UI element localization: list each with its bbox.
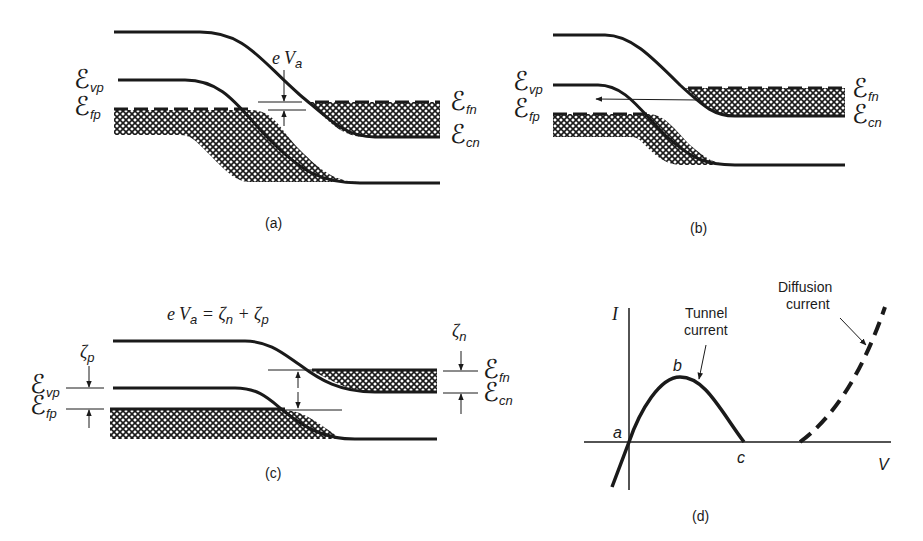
panel-a: eVa ℰvp ℰfp ℰfn ℰcn (a) — [74, 32, 480, 231]
panel-b: ℰvp ℰfp ℰfn ℰcn (b) — [513, 35, 882, 236]
n-side-filled-states — [685, 88, 845, 116]
caption-a: (a) — [265, 215, 282, 231]
diffusion-pointer-arrow — [840, 318, 866, 345]
efp-label: ℰfp — [513, 94, 540, 124]
point-c-label: c — [737, 449, 745, 466]
p-side-filled-states — [114, 110, 360, 182]
tunnel-diode-figure: eVa ℰvp ℰfp ℰfn ℰcn (a) ℰvp ℰfp ℰfn ℰcn … — [0, 0, 923, 541]
ecn-label: ℰcn — [450, 120, 480, 150]
efp-label: ℰfp — [74, 92, 101, 122]
diffusion-label-line2: current — [786, 296, 830, 312]
evp-label: ℰvp — [74, 65, 104, 95]
panel-c: eVa = ζn + ζp ζp ζn ℰvp ℰfp ℰfn ℰcn (c) — [30, 304, 513, 481]
diffusion-current-curve — [800, 307, 885, 442]
diffusion-label-line1: Diffusion — [778, 279, 832, 295]
x-axis-label: V — [878, 456, 890, 473]
evp-label: ℰvp — [513, 67, 543, 97]
eva-label: eVa — [272, 48, 302, 71]
tunnel-label-line2: current — [684, 322, 728, 338]
zeta-n-label: ζn — [452, 321, 467, 344]
tunnel-pointer-arrow — [699, 345, 706, 379]
tunneling-arrow — [596, 99, 700, 100]
panel-d: I V a b c Tunnel current Diffusion curre… — [584, 279, 891, 524]
point-b-label: b — [673, 357, 682, 374]
tunnel-label-line1: Tunnel — [685, 305, 727, 321]
point-a-label: a — [613, 424, 622, 441]
y-axis-label: I — [611, 304, 619, 324]
ecn-label: ℰcn — [852, 100, 882, 130]
caption-c: (c) — [265, 465, 281, 481]
p-side-filled-states — [553, 114, 735, 165]
caption-d: (d) — [692, 508, 709, 524]
caption-b: (b) — [690, 220, 707, 236]
n-side-filled-states — [312, 371, 437, 392]
p-side-filled-states — [110, 410, 350, 439]
tunnel-current-curve — [612, 377, 744, 487]
equation-label: eVa = ζn + ζp — [167, 304, 269, 327]
efn-label: ℰfn — [450, 87, 477, 117]
zeta-p-label: ζp — [80, 342, 95, 365]
